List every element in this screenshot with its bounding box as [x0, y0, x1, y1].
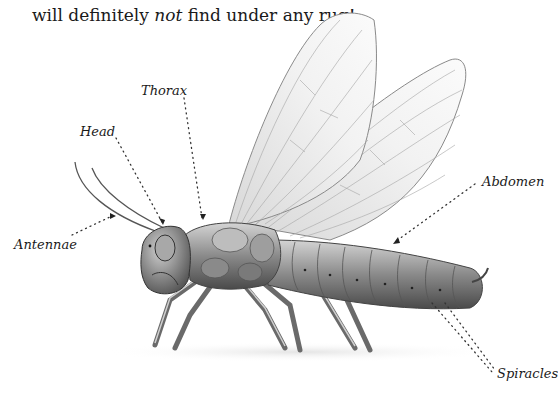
antennae-leader	[72, 216, 112, 235]
head-leader	[116, 138, 162, 222]
head	[141, 226, 191, 294]
label-thorax: Thorax	[141, 83, 187, 99]
label-abdomen: Abdomen	[482, 174, 544, 190]
antennae	[75, 162, 164, 232]
label-antennae: Antennae	[14, 237, 77, 253]
spiracles-leader-2	[445, 303, 495, 370]
spiracles-leader-1	[432, 303, 492, 372]
label-head: Head	[80, 124, 115, 140]
thorax	[185, 223, 281, 289]
abdomen	[268, 240, 488, 309]
label-spiracles: Spiracles	[497, 366, 558, 382]
thorax-leader	[184, 98, 202, 218]
